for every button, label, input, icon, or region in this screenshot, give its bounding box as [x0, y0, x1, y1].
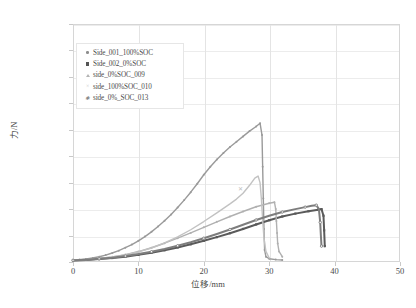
series-point [203, 237, 205, 239]
series-point [255, 206, 257, 208]
series-point [268, 202, 270, 204]
series-point [281, 256, 283, 258]
series-point [324, 245, 326, 247]
series-point [277, 242, 279, 244]
series-point [157, 226, 159, 228]
legend-item[interactable]: ✱ side_0%_SOC_013 [82, 93, 179, 104]
series-point [111, 252, 113, 254]
series-point [281, 215, 283, 217]
x-marker-icon: ✕ [238, 186, 243, 192]
series-point [262, 198, 264, 200]
series-point [320, 208, 322, 210]
series-point [164, 220, 166, 222]
series-point [177, 207, 179, 209]
series-point [276, 232, 278, 234]
series-point [150, 231, 152, 233]
x-axis-tick-label: 50 [380, 266, 416, 276]
series-line [73, 209, 325, 260]
series-point [242, 135, 244, 137]
series-point [307, 210, 309, 212]
series-point [222, 152, 224, 154]
series-point [118, 250, 120, 252]
legend-item-label: side_0%_SOC_013 [93, 94, 148, 102]
y-axis-tick-mark [69, 103, 73, 104]
series-point [273, 201, 275, 203]
series-point [131, 244, 133, 246]
series-point [315, 204, 317, 206]
series-point [209, 166, 211, 168]
series-point [124, 255, 126, 257]
star-marker-icon: ✱ [82, 96, 93, 102]
series-point [261, 134, 263, 136]
data-series [72, 122, 283, 261]
x-axis-tick-label: 20 [184, 266, 224, 276]
series-point [259, 122, 261, 124]
series-point [170, 213, 172, 215]
legend-item-label: side_0%SOC_009 [93, 71, 145, 79]
x-axis-tick-label: 40 [315, 266, 355, 276]
series-point [262, 166, 264, 168]
series-point [216, 221, 218, 223]
x-axis-tick-mark [138, 262, 139, 266]
series-point [242, 228, 244, 230]
chart-container: 力/N 位移/mm ✕ Side_001_100%SOC Side_002_0%… [0, 0, 416, 308]
series-point [190, 232, 192, 234]
series-point [229, 228, 231, 230]
series-point [322, 215, 324, 217]
series-line [73, 123, 282, 260]
series-point [124, 247, 126, 249]
series-point [319, 221, 321, 223]
data-series [72, 201, 283, 261]
series-point [255, 219, 257, 221]
series-point [144, 236, 146, 238]
series-point [304, 206, 306, 208]
series-layer: ✕ [0, 0, 416, 308]
y-axis-tick-mark [69, 130, 73, 131]
series-point [196, 183, 198, 185]
x-axis-tick-label: 0 [53, 266, 93, 276]
series-point [190, 243, 192, 245]
x-axis-tick-mark [400, 262, 401, 266]
series-point [281, 211, 283, 213]
series-point [216, 159, 218, 161]
x-axis-tick-label: 30 [249, 266, 289, 276]
x-axis-tick-mark [73, 262, 74, 266]
y-axis-tick-mark [69, 236, 73, 237]
series-point [105, 254, 107, 256]
series-point [203, 226, 205, 228]
series-point [203, 240, 205, 242]
x-axis-tick-label: 10 [118, 266, 158, 276]
y-axis-tick-mark [69, 209, 73, 210]
legend-item[interactable]: Side_001_100%SOC [82, 47, 179, 58]
series-point [294, 213, 296, 215]
legend-item[interactable]: side_0%SOC_009 [82, 70, 179, 81]
triangle-marker-icon [82, 74, 93, 77]
series-point [275, 208, 277, 210]
dot-marker-icon [82, 51, 93, 54]
series-point [249, 130, 251, 132]
series-point [137, 240, 139, 242]
y-axis-tick-mark [69, 156, 73, 157]
series-point [265, 256, 267, 258]
series-point [150, 250, 152, 252]
series-point [98, 258, 100, 260]
y-axis-tick-mark [69, 183, 73, 184]
legend-item-label: Side_002_0%SOC [93, 60, 146, 68]
data-series [72, 204, 323, 262]
series-point [323, 229, 325, 231]
legend-item[interactable]: × side_100%SOC_010 [82, 81, 179, 92]
series-point [203, 174, 205, 176]
series-point [255, 125, 257, 127]
series-point [229, 146, 231, 148]
legend-item[interactable]: Side_002_0%SOC [82, 58, 179, 69]
series-point [255, 223, 257, 225]
series-point [278, 250, 280, 252]
series-point [229, 216, 231, 218]
series-point [242, 210, 244, 212]
x-axis-tick-mark [204, 262, 205, 266]
x-axis-tick-mark [269, 262, 270, 266]
y-axis-tick-mark [69, 24, 73, 25]
y-axis-tick-mark [69, 50, 73, 51]
square-marker-icon [82, 62, 93, 65]
series-point [281, 259, 283, 261]
